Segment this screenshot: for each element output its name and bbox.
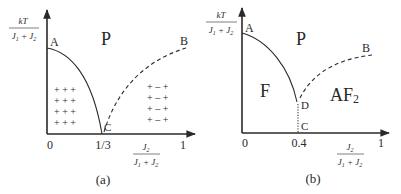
svg-text:+ + +: + + + <box>54 84 76 95</box>
point-A-label: A <box>50 35 59 49</box>
x-tick-1-3: 1/3 <box>95 138 110 152</box>
svg-text:+ – +: + – + <box>147 114 169 125</box>
panel-a: kT J1 + J2 A B C P + + + + + + + + + + +… <box>9 10 195 187</box>
point-B-label: B <box>362 41 370 55</box>
x-tick-1: 1 <box>180 138 186 152</box>
x-tick-0: 0 <box>47 138 53 152</box>
point-C-label: C <box>301 120 308 132</box>
y-axis-label-denominator: J1 + J2 <box>12 31 37 42</box>
region-P-label: P <box>101 29 111 49</box>
y-axis-label-numerator: kT <box>217 10 227 20</box>
point-A-label: A <box>245 21 254 35</box>
svg-text:+ + +: + + + <box>54 95 76 106</box>
svg-text:+ + +: + + + <box>54 106 76 117</box>
point-D-label: D <box>301 99 309 111</box>
phase-diagram-figure: kT J1 + J2 A B C P + + + + + + + + + + +… <box>0 0 401 194</box>
y-axis-label-denominator: J1 + J2 <box>209 25 234 36</box>
x-tick-0: 0 <box>242 136 248 150</box>
antiferromagnetic-symbols: + – + + – + + – + + – + <box>147 81 169 125</box>
point-C-label: C <box>104 121 111 133</box>
svg-text:+ + +: + + + <box>54 117 76 128</box>
region-AF2-label: AF2 <box>330 85 359 106</box>
boundary-c-b-dashed <box>104 48 186 132</box>
x-axis-label-denominator: J1 + J2 <box>338 157 363 168</box>
panel-a-caption: (a) <box>96 172 110 187</box>
svg-text:+ – +: + – + <box>147 81 169 92</box>
panel-b-caption: (b) <box>305 171 320 186</box>
x-axis-label-numerator: J2 <box>347 142 354 153</box>
svg-text:+ – +: + – + <box>147 103 169 114</box>
x-axis-label-numerator: J2 <box>143 142 150 153</box>
ferromagnetic-symbols: + + + + + + + + + + + + <box>54 84 76 128</box>
x-axis-label-denominator: J1 + J2 <box>134 157 159 168</box>
x-tick-1: 1 <box>378 136 384 150</box>
point-B-label: B <box>180 34 188 48</box>
panel-b: kT J1 + J2 A B D C P F AF2 0 0.4 1 J2 J1… <box>206 8 389 186</box>
region-F-label: F <box>260 81 270 101</box>
y-axis-label-numerator: kT <box>19 16 29 26</box>
svg-text:+ – +: + – + <box>147 92 169 103</box>
region-P-label: P <box>296 29 306 49</box>
x-tick-0-4: 0.4 <box>292 136 307 150</box>
